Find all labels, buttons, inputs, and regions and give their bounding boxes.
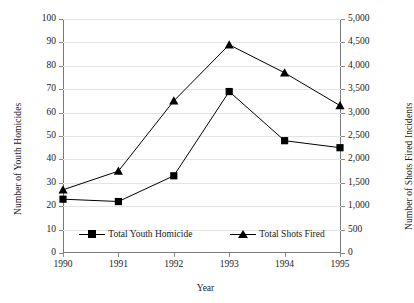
legend-marker-square-icon: [79, 229, 105, 239]
x-axis-tick: [174, 253, 175, 257]
y-axis-left-tick-label: 100: [0, 14, 56, 24]
y-axis-left-tick-label: 90: [0, 37, 56, 47]
data-point-marker-triangle: [280, 68, 289, 76]
y-axis-left-tick-label: 0: [0, 248, 56, 258]
data-point-marker-triangle: [225, 40, 234, 48]
x-axis-tick: [285, 253, 286, 257]
y-axis-left-tick-label: 10: [0, 225, 56, 235]
legend-marker-triangle-icon: [230, 229, 256, 239]
y-axis-right-tick: [341, 206, 345, 207]
data-point-marker-triangle: [335, 101, 344, 109]
x-axis-tick: [118, 253, 119, 257]
data-point-marker-square: [336, 144, 343, 151]
y-axis-right-tick-label: 1,000: [348, 201, 408, 211]
y-axis-right-tick: [341, 66, 345, 67]
y-axis-right-tick-label: 3,000: [348, 108, 408, 118]
series-line-triangle: [63, 45, 340, 190]
legend-label: Total Shots Fired: [259, 229, 324, 239]
x-axis-tick-label: 1990: [38, 260, 88, 270]
y-axis-right-tick-label: 3,500: [348, 84, 408, 94]
y-axis-right-tick: [341, 89, 345, 90]
chart-legend: Total Youth HomicideTotal Shots Fired: [63, 225, 341, 243]
legend-label: Total Youth Homicide: [108, 229, 192, 239]
x-axis-tick-label: 1992: [149, 260, 199, 270]
y-axis-left-tick-label: 20: [0, 201, 56, 211]
series-layer: [63, 19, 341, 253]
data-point-marker-square: [281, 137, 288, 144]
y-axis-right-tick: [341, 183, 345, 184]
y-axis-right-tick: [341, 253, 345, 254]
data-point-marker-square: [59, 196, 66, 203]
y-axis-right-tick: [341, 136, 345, 137]
legend-entry[interactable]: Total Shots Fired: [230, 229, 324, 239]
y-axis-right-tick-label: 4,500: [348, 37, 408, 47]
y-axis-right-tick: [341, 113, 345, 114]
x-axis-tick-label: 1995: [315, 260, 365, 270]
y-axis-left-tick-label: 50: [0, 131, 56, 141]
y-axis-right-tick: [341, 42, 345, 43]
x-axis-tick: [63, 253, 64, 257]
y-axis-left-tick-label: 60: [0, 108, 56, 118]
y-axis-left-tick-label: 30: [0, 178, 56, 188]
y-axis-right-tick-label: 1,500: [348, 178, 408, 188]
y-axis-right-tick-label: 2,000: [348, 154, 408, 164]
y-axis-right-tick: [341, 230, 345, 231]
y-axis-right-title: Number of Shots Fired Incidents: [404, 102, 414, 230]
data-point-marker-triangle: [58, 185, 67, 193]
x-axis-title: Year: [0, 283, 411, 293]
y-axis-left-tick-label: 40: [0, 154, 56, 164]
y-axis-left-tick-label: 80: [0, 61, 56, 71]
data-point-marker-square: [170, 172, 177, 179]
x-axis-tick: [340, 253, 341, 257]
x-axis-tick-label: 1991: [93, 260, 143, 270]
x-axis-tick-label: 1993: [204, 260, 254, 270]
data-point-marker-square: [115, 198, 122, 205]
y-axis-right-tick: [341, 19, 345, 20]
y-axis-right-tick-label: 500: [348, 225, 408, 235]
series-line-square: [63, 92, 340, 202]
y-axis-right-tick: [341, 159, 345, 160]
plot-area: 0102030405060708090100 05001,0001,5002,0…: [63, 19, 341, 253]
data-point-marker-square: [226, 88, 233, 95]
y-axis-right-tick-label: 4,000: [348, 61, 408, 71]
legend-entry[interactable]: Total Youth Homicide: [79, 229, 192, 239]
y-axis-right-tick-label: 2,500: [348, 131, 408, 141]
y-axis-right-tick-label: 5,000: [348, 14, 408, 24]
x-axis-tick: [229, 253, 230, 257]
y-axis-right-tick-label: 0: [348, 248, 408, 258]
x-axis-tick-label: 1994: [260, 260, 310, 270]
y-axis-left-tick-label: 70: [0, 84, 56, 94]
